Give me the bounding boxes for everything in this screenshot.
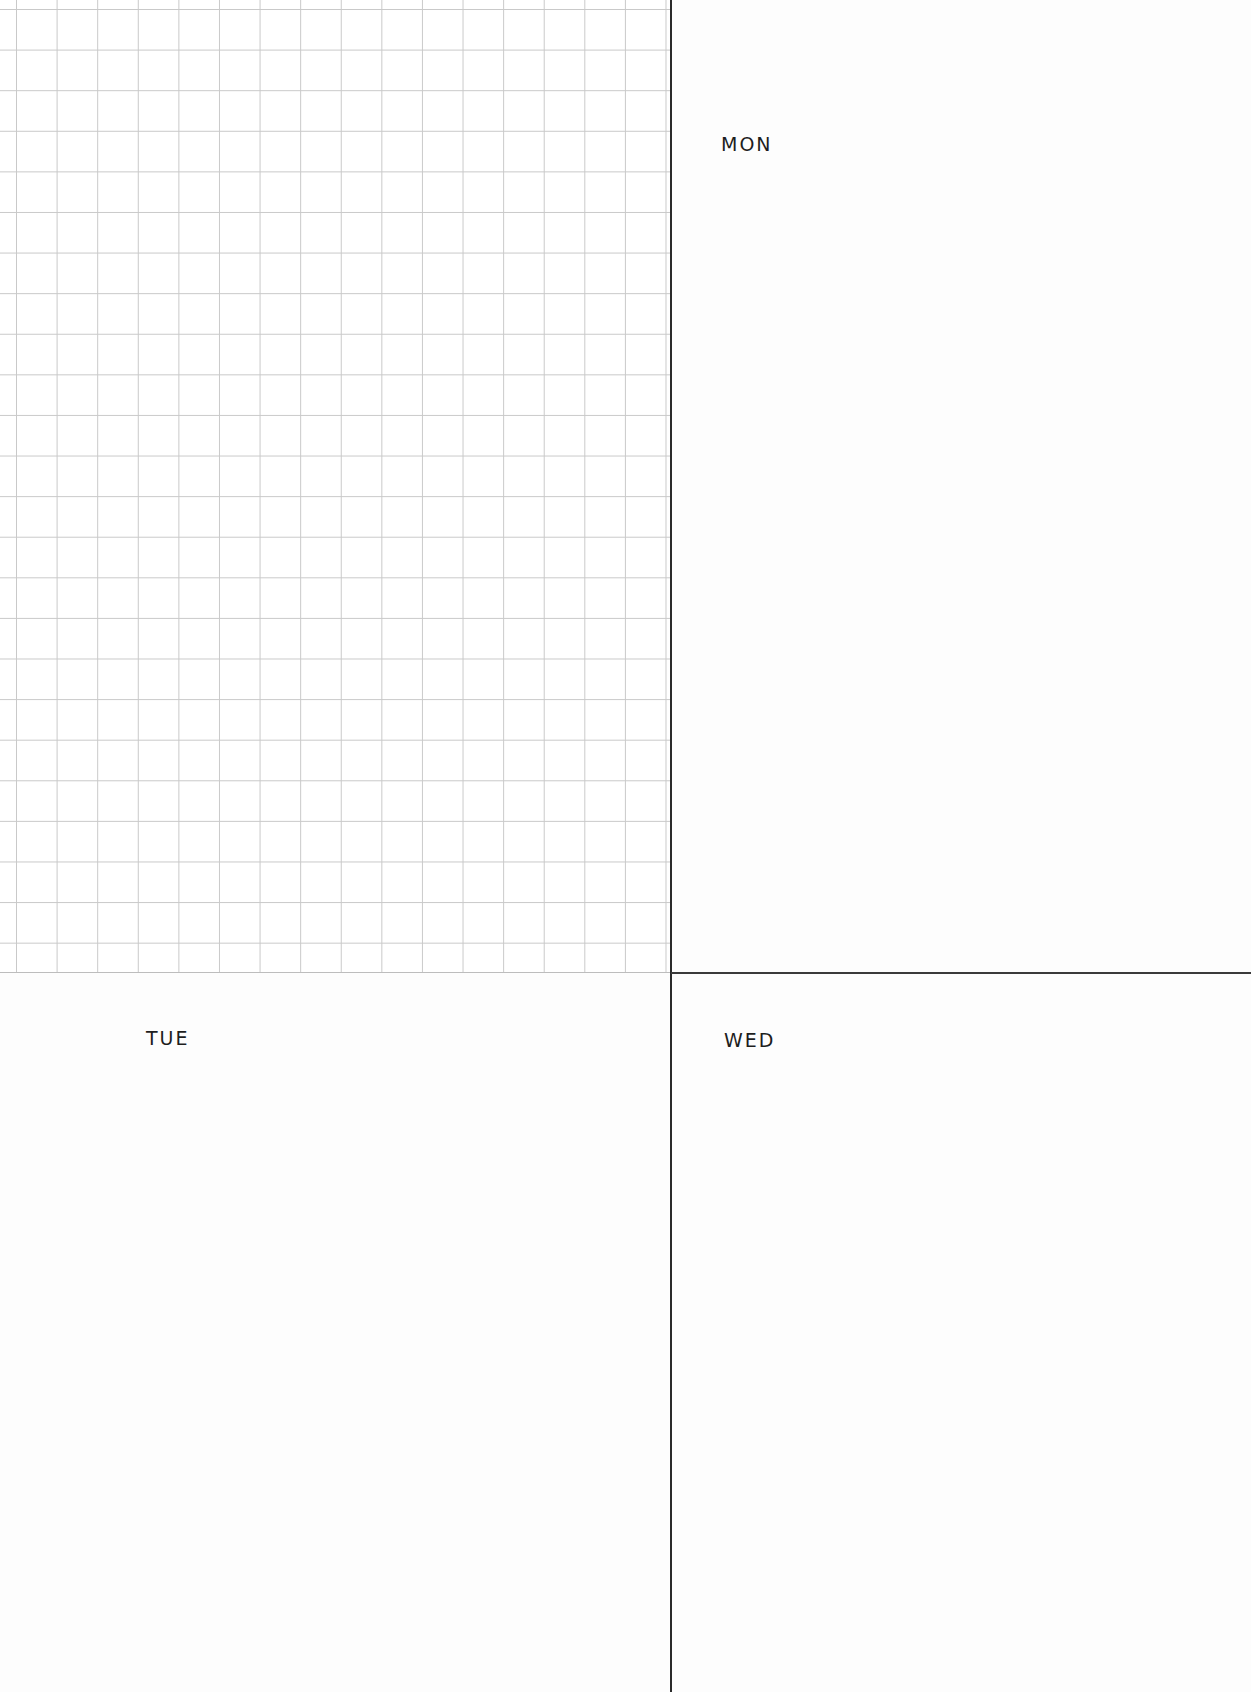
- day-label-monday: MON: [721, 133, 773, 155]
- planner-page: MON TUE WED: [0, 0, 1251, 1692]
- grid-bottom-edge: [0, 972, 670, 973]
- day-panel-wednesday[interactable]: WED: [672, 974, 1251, 1692]
- day-panel-tuesday[interactable]: TUE: [0, 974, 670, 1692]
- vertical-divider: [670, 0, 672, 1692]
- grid-notes-area[interactable]: [0, 0, 670, 973]
- horizontal-divider: [671, 972, 1251, 974]
- day-label-wednesday: WED: [724, 1029, 775, 1051]
- day-panel-monday[interactable]: MON: [672, 0, 1251, 972]
- day-label-tuesday: TUE: [146, 1027, 190, 1049]
